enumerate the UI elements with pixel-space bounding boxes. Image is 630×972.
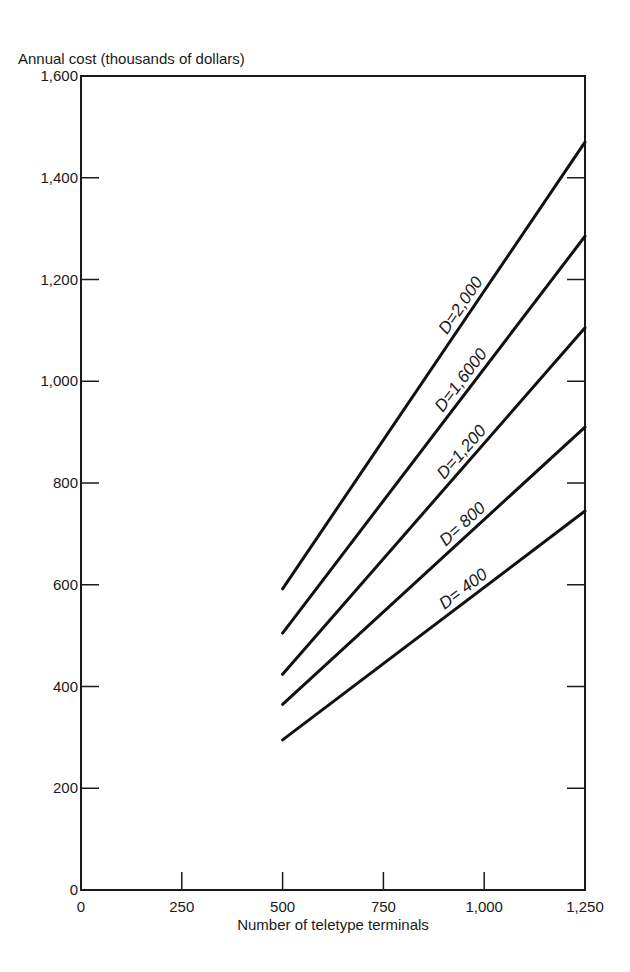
chart: Annual cost (thousands of dollars) Numbe…	[0, 0, 630, 972]
series-line	[283, 328, 585, 674]
y-axis-label: Annual cost (thousands of dollars)	[18, 50, 245, 67]
y-tick-label: 800	[53, 474, 78, 491]
y-ticks: 02004006008001,0001,2001,4001,600	[40, 67, 585, 898]
x-tick-label: 0	[77, 898, 85, 915]
y-tick-label: 1,600	[40, 67, 78, 84]
series-lines	[283, 142, 585, 740]
plot-frame	[81, 76, 585, 890]
series-line	[283, 511, 585, 740]
x-tick-label: 750	[371, 898, 396, 915]
x-axis-label: Number of teletype terminals	[237, 916, 429, 933]
y-tick-label: 400	[53, 678, 78, 695]
y-tick-label: 200	[53, 779, 78, 796]
x-ticks: 02505007501,0001,250	[77, 872, 604, 915]
x-tick-label: 500	[270, 898, 295, 915]
y-tick-label: 1,000	[40, 372, 78, 389]
x-tick-label: 1,250	[566, 898, 604, 915]
series-line	[283, 142, 585, 589]
x-tick-label: 1,000	[465, 898, 503, 915]
y-tick-label: 0	[70, 881, 78, 898]
x-tick-label: 250	[169, 898, 194, 915]
series-label: D=1,200	[433, 421, 490, 483]
series-line	[283, 236, 585, 633]
y-tick-label: 1,400	[40, 169, 78, 186]
y-tick-label: 1,200	[40, 271, 78, 288]
y-tick-label: 600	[53, 576, 78, 593]
